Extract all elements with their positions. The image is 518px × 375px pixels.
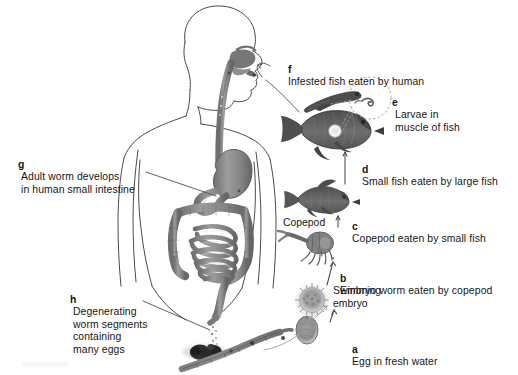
rectum [210, 281, 226, 323]
stage-text-h: Degenerating worm segments containing ma… [70, 306, 148, 356]
stage-key-a: a [352, 344, 358, 355]
stage-text-e: Larvae in muscle of fish [392, 109, 460, 134]
stage-label-h: h Degenerating worm segments containing … [70, 281, 148, 357]
stage-key-c: c [352, 221, 358, 232]
stage-text-d: Small fish eaten by large fish [362, 176, 498, 187]
small-fish [284, 180, 349, 217]
egg [296, 316, 318, 345]
stage-key-b: b [340, 273, 346, 284]
stage-label-g: g Adult worm develops in human small int… [18, 146, 135, 196]
stage-label-c: c Copepod eaten by small fish [352, 208, 486, 246]
stage-key-g: g [18, 159, 24, 170]
stage-label-e: e Larvae in muscle of fish [392, 84, 460, 134]
stage-label-d: d Small fish eaten by large fish [362, 151, 498, 189]
stage-key-f: f [288, 64, 292, 75]
stage-text-a: Egg in fresh water [352, 356, 438, 367]
esophagus [219, 63, 231, 160]
annotation-swimming-embryo: Swimming embryo [333, 285, 381, 310]
stage-text-c: Copepod eaten by small fish [352, 233, 486, 244]
copepod [278, 231, 334, 265]
scan-artifact [22, 362, 68, 367]
stage-key-d: d [362, 164, 368, 175]
figure-canvas: f Infested fish eaten by human e Larvae … [0, 0, 518, 375]
stage-key-h: h [70, 294, 76, 305]
stage-key-e: e [392, 97, 398, 108]
stage-label-a: a Egg in fresh water [352, 331, 438, 369]
swimming-embryo [295, 283, 329, 317]
stage-text-g: Adult worm develops in human small intes… [18, 171, 135, 196]
falling-eggs-trail [211, 326, 218, 345]
larva [304, 92, 361, 113]
annotation-copepod: Copepod [283, 217, 325, 230]
